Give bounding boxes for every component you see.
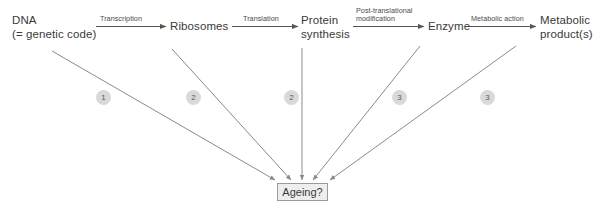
converge-arrow-dna — [52, 51, 275, 180]
badge-2a: 2 — [186, 90, 201, 105]
node-ribosomes-line-1: Ribosomes — [170, 20, 228, 34]
edge-label-metabolic-action-line-1: Metabolic action — [471, 15, 524, 23]
diagram-canvas: DNA (= genetic code) Ribosomes Protein s… — [0, 0, 600, 215]
edge-label-post-translational-line-2: modification — [356, 15, 412, 23]
node-protein-synthesis-line-2: synthesis — [301, 28, 350, 42]
node-protein-synthesis: Protein synthesis — [301, 14, 350, 41]
converge-arrow-metabolic — [330, 46, 516, 180]
edge-label-metabolic-action: Metabolic action — [471, 15, 524, 23]
edge-label-transcription: Transcription — [100, 15, 142, 23]
node-dna-line-1: DNA — [12, 14, 96, 28]
node-protein-synthesis-line-1: Protein — [301, 14, 350, 28]
node-metabolic-product-line-1: Metabolic — [540, 14, 593, 28]
edge-label-transcription-line-1: Transcription — [100, 15, 142, 23]
converge-arrow-ribosomes — [172, 49, 291, 180]
ageing-outcome-box: Ageing? — [277, 183, 328, 201]
node-dna: DNA (= genetic code) — [12, 14, 96, 41]
node-metabolic-product: Metabolic product(s) — [540, 14, 593, 41]
node-dna-line-2: (= genetic code) — [12, 28, 96, 42]
ageing-outcome-label: Ageing? — [278, 184, 327, 200]
edge-label-post-translational-modification: Post-translational modification — [356, 7, 412, 24]
converge-arrow-enzyme — [313, 46, 420, 180]
node-enzyme-line-1: Enzyme — [428, 20, 470, 34]
badge-3a: 3 — [392, 90, 407, 105]
badge-2b: 2 — [284, 90, 299, 105]
node-metabolic-product-line-2: product(s) — [540, 28, 593, 42]
edge-label-translation: Translation — [243, 15, 279, 23]
node-enzyme: Enzyme — [428, 20, 470, 34]
badge-1: 1 — [96, 90, 111, 105]
badge-3b: 3 — [480, 90, 495, 105]
node-ribosomes: Ribosomes — [170, 20, 228, 34]
edge-label-translation-line-1: Translation — [243, 15, 279, 23]
